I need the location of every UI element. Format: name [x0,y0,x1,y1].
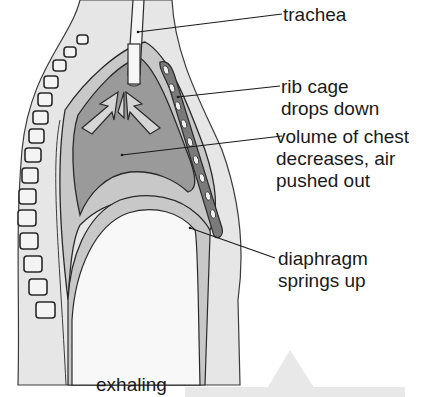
exhaling-diagram: trachea rib cage drops down volume of ch… [0,0,428,397]
label-volume-of-chest: volume of chest decreases, air pushed ou… [276,126,409,192]
label-diaphragm: diaphragm springs up [278,248,368,292]
label-rib-cage: rib cage drops down [281,76,379,120]
diagram-caption: exhaling [96,374,167,396]
thorax-illustration [0,0,428,397]
label-trachea: trachea [283,4,346,26]
